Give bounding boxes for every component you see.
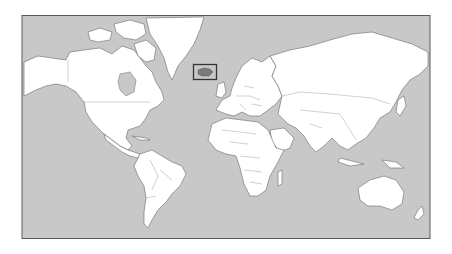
world-map — [0, 0, 452, 254]
madagascar — [278, 170, 282, 186]
